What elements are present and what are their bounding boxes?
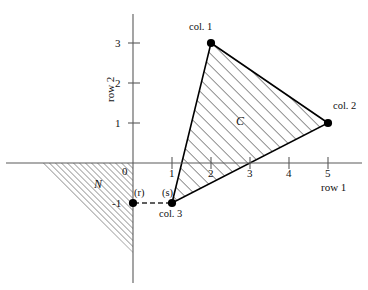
x-tick-label-5: 5 xyxy=(325,168,331,179)
y-axis-ticks xyxy=(128,43,140,123)
y-tick-label-3: 3 xyxy=(115,38,121,49)
point-label-col-3: col. 3 xyxy=(159,209,182,220)
region-c-fill xyxy=(172,43,328,203)
x-tick-label-0: 0 xyxy=(122,166,128,177)
point-label-s: (s) xyxy=(162,188,173,199)
y-axis-label: row 2 xyxy=(105,77,116,102)
x-tick-label-2: 2 xyxy=(208,168,214,179)
point-col-2[interactable] xyxy=(324,119,332,127)
y-tick-label-1: 1 xyxy=(115,118,121,129)
point-label-col-1: col. 1 xyxy=(189,22,212,33)
figure-canvas: 0 1 2 3 4 5 1 2 3 -1 row 1 row 2 col. 1 … xyxy=(0,0,368,290)
region-label-n: N xyxy=(94,178,102,190)
point-col-3[interactable] xyxy=(168,199,176,207)
x-tick-label-1: 1 xyxy=(169,168,175,179)
region-label-c: C xyxy=(236,115,244,127)
x-axis-label: row 1 xyxy=(321,182,346,193)
y-tick-label-minus-1: -1 xyxy=(112,198,121,209)
point-label-r: (r) xyxy=(134,188,145,199)
x-tick-label-4: 4 xyxy=(286,168,292,179)
point-label-col-2: col. 2 xyxy=(333,101,356,112)
point-col-1[interactable] xyxy=(207,39,215,47)
x-tick-label-3: 3 xyxy=(247,168,253,179)
point-r[interactable] xyxy=(129,199,137,207)
plot-svg xyxy=(0,0,368,290)
